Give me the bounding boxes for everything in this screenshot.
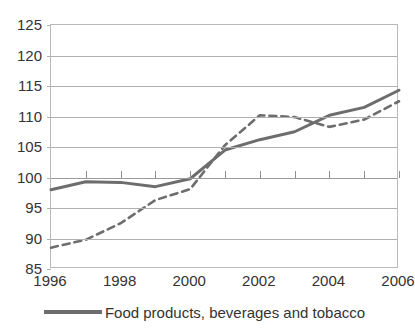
x-tick-1998 — [121, 171, 122, 178]
y-tick-125 — [47, 25, 51, 26]
x-axis-tick-label: 2000 — [173, 272, 206, 289]
y-axis-tick-label: 105 — [17, 138, 42, 155]
x-axis-tick-label: 1996 — [33, 272, 66, 289]
x-axis-tick-label: 1998 — [103, 272, 136, 289]
y-tick-120 — [47, 56, 51, 57]
y-axis-tick-label: 95 — [25, 199, 42, 216]
y-tick-100 — [47, 178, 51, 179]
y-tick-115 — [47, 86, 51, 87]
x-axis-tick-label: 2002 — [242, 272, 275, 289]
gridline-95 — [51, 208, 397, 209]
x-tick-2000 — [190, 171, 191, 178]
x-axis-tick-label: 2004 — [312, 272, 345, 289]
y-tick-90 — [47, 239, 51, 240]
x-tick-2004 — [329, 171, 330, 178]
gridline-90 — [51, 239, 397, 240]
y-tick-85 — [47, 269, 51, 270]
legend-line-swatch — [44, 310, 102, 314]
gridline-100 — [51, 178, 397, 179]
chart-title-strip — [0, 0, 409, 14]
x-tick-2002 — [260, 171, 261, 178]
y-axis-tick-label: 125 — [17, 16, 42, 33]
gridline-110 — [51, 117, 397, 118]
y-axis-tick-label: 90 — [25, 229, 42, 246]
plot-area — [50, 24, 398, 268]
legend-item-label: Food products, beverages and tobacco — [105, 304, 365, 321]
y-axis-labels: 859095100105110115120125 — [0, 24, 46, 268]
y-axis-tick-label: 110 — [18, 107, 42, 124]
gridline-105 — [51, 147, 397, 148]
y-axis-tick-label: 115 — [18, 77, 42, 94]
chart-legend: Food products, beverages and tobacco — [0, 300, 409, 324]
y-axis-tick-label: 120 — [17, 46, 42, 63]
gridline-115 — [51, 86, 397, 87]
gridline-120 — [51, 56, 397, 57]
x-tick-2001 — [225, 171, 226, 178]
x-tick-1997 — [86, 171, 87, 178]
x-tick-2005 — [364, 171, 365, 178]
x-tick-2003 — [295, 171, 296, 178]
x-tick-2006 — [399, 171, 400, 178]
y-tick-105 — [47, 147, 51, 148]
y-tick-110 — [47, 117, 51, 118]
y-tick-95 — [47, 208, 51, 209]
x-tick-1999 — [155, 171, 156, 178]
x-axis-labels: 199619982000200220042006 — [50, 272, 398, 294]
y-axis-tick-label: 100 — [17, 168, 42, 185]
x-axis-tick-label: 2006 — [381, 272, 414, 289]
